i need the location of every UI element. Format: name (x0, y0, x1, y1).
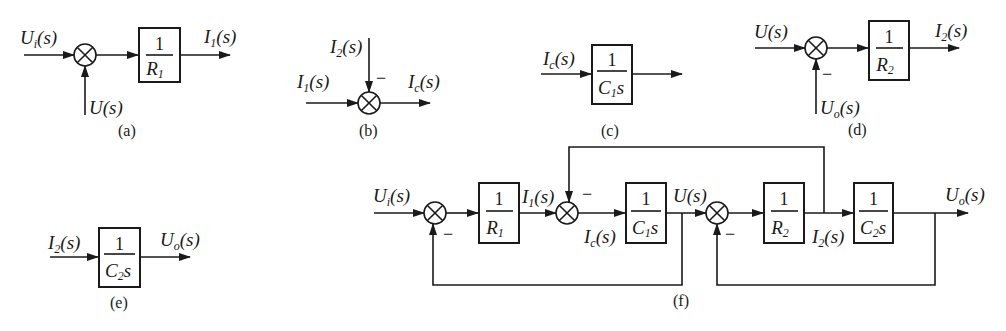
caption-f: (f) (673, 292, 689, 310)
input-label: Ui(s) (373, 185, 410, 209)
signal-ic-label: Ic(s) (583, 226, 616, 250)
feedback-label: Uo(s) (820, 97, 860, 121)
panel-b: I2(s) − I1(s) Ic(s) (b) (296, 36, 440, 140)
output-label: I2(s) (934, 20, 967, 44)
summing-junction-3 (706, 202, 728, 224)
svg-text:1: 1 (155, 34, 164, 54)
top-input-label: I2(s) (329, 36, 362, 60)
input-label: I2(s) (47, 232, 80, 256)
panel-c: Ic(s) 1 C1s (c) (541, 45, 682, 140)
summing-junction (358, 92, 380, 114)
input-label: Ic(s) (542, 48, 575, 72)
panel-a: Ui(s) U(s) 1 R1 I1(s) (a) (20, 26, 236, 140)
feedback-path-uo (717, 213, 935, 285)
output-label: Uo(s) (160, 229, 200, 253)
caption-e: (e) (110, 294, 128, 312)
svg-text:1: 1 (642, 189, 651, 209)
transfer-block-1-over-c1s: 1 C1s (626, 183, 666, 243)
panel-d: U(s) − Uo(s) 1 R2 I2(s) (d) (754, 20, 967, 139)
minus-sign: − (822, 64, 832, 84)
transfer-block-1-over-r2: 1 R2 (869, 21, 909, 80)
svg-text:1: 1 (115, 234, 124, 254)
output-label: I1(s) (203, 26, 236, 50)
summing-junction (805, 37, 827, 59)
left-input-label: I1(s) (296, 71, 329, 95)
svg-text:1: 1 (885, 27, 894, 47)
transfer-block-1-over-r2: 1 R2 (764, 183, 804, 243)
transfer-block-1-over-c2s: 1 C2s (854, 183, 893, 243)
input-label: U(s) (754, 21, 788, 43)
signal-i1-label: I1(s) (521, 186, 554, 210)
minus-sign: − (376, 68, 386, 88)
minus-sign-2: − (582, 184, 592, 204)
svg-text:1: 1 (780, 189, 789, 209)
svg-text:1: 1 (495, 189, 504, 209)
signal-u-label: U(s) (673, 185, 707, 207)
summing-junction-2 (556, 202, 578, 224)
caption-b: (b) (359, 122, 378, 140)
caption-c: (c) (601, 122, 619, 140)
transfer-block-1-over-r1: 1 R1 (479, 183, 519, 243)
svg-text:1: 1 (869, 189, 878, 209)
output-label: Ic(s) (407, 71, 440, 95)
panel-e: I2(s) 1 C2s Uo(s) (e) (47, 228, 200, 312)
summing-junction-1 (424, 202, 446, 224)
minus-sign-1: − (443, 224, 453, 244)
caption-a: (a) (118, 122, 136, 140)
transfer-block-1-over-c2s: 1 C2s (99, 228, 140, 287)
panel-f: Ui(s) − 1 R1 I1(s) − Ic(s) 1 (373, 147, 985, 310)
summing-junction (74, 44, 96, 66)
transfer-block-1-over-r1: 1 R1 (139, 28, 180, 82)
signal-i2-label: I2(s) (811, 226, 844, 250)
svg-text:1: 1 (608, 50, 617, 70)
feedback-label: U(s) (89, 97, 123, 119)
minus-sign-3: − (725, 224, 735, 244)
block-diagram-canvas: Ui(s) U(s) 1 R1 I1(s) (a) I2(s) − I1(s) (0, 0, 1006, 331)
transfer-block-1-over-c1s: 1 C1s (592, 45, 632, 104)
caption-d: (d) (848, 121, 867, 139)
signal-uo-label: Uo(s) (945, 184, 985, 208)
input-label: Ui(s) (20, 27, 57, 51)
